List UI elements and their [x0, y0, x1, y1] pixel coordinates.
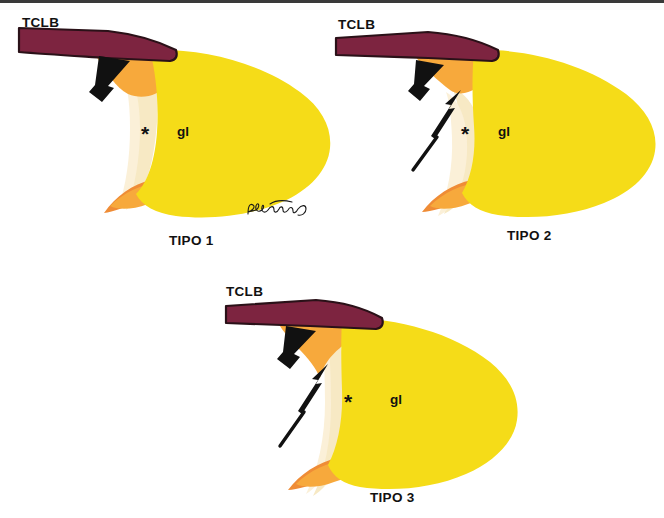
- gland-label: gl: [498, 124, 510, 139]
- gland-label: gl: [177, 124, 189, 139]
- tclb-label: TCLB: [226, 284, 263, 299]
- tclb-tendon-shape: [19, 28, 177, 61]
- panel-tipo-1-illustration: [0, 0, 340, 260]
- tclb-label: TCLB: [22, 15, 59, 30]
- panel-tipo-2-illustration: [324, 0, 664, 260]
- figure-root: TCLB * gl TIPO 1: [0, 0, 664, 518]
- panel-tipo-1: TCLB * gl TIPO 1: [0, 0, 340, 260]
- tclb-tendon-shape: [336, 32, 499, 61]
- panel-tipo-3: TCLB * gl TIPO 3: [180, 268, 520, 518]
- panel-caption-tipo-2: TIPO 2: [507, 228, 552, 243]
- gland-body-shape: [462, 50, 656, 217]
- panel-caption-tipo-1: TIPO 1: [169, 233, 214, 248]
- tclb-label: TCLB: [338, 17, 375, 32]
- gland-body-shape: [136, 50, 330, 218]
- gland-body-shape: [328, 318, 518, 489]
- tclb-tendon-shape: [226, 300, 383, 329]
- asterisk-marker: *: [344, 391, 352, 412]
- gland-label: gl: [390, 392, 402, 407]
- asterisk-marker: *: [461, 123, 469, 144]
- thin-arrow-icon: [280, 364, 328, 446]
- panel-tipo-2: TCLB * gl TIPO 2: [324, 0, 664, 260]
- panel-caption-tipo-3: TIPO 3: [370, 490, 415, 505]
- asterisk-marker: *: [141, 123, 149, 144]
